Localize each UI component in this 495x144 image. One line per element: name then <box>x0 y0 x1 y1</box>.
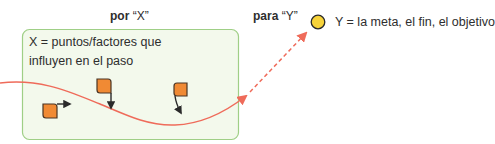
para-keyword: para <box>253 9 278 23</box>
por-variable: “X” <box>133 9 149 23</box>
factors-description-line-1: X = puntos/factores que <box>29 33 229 52</box>
por-keyword: por <box>110 9 129 23</box>
por-x-label: por “X” <box>110 9 149 23</box>
goal-circle-icon <box>311 15 325 29</box>
factors-description: X = puntos/factores que influyen en el p… <box>29 33 229 71</box>
factors-description-line-2: influyen en el paso <box>29 52 229 71</box>
goal-description: Y = la meta, el fin, el objetivo <box>335 15 495 29</box>
para-y-label: para “Y” <box>253 9 298 23</box>
path-dashed-continuation <box>250 33 306 92</box>
para-variable: “Y” <box>282 9 298 23</box>
